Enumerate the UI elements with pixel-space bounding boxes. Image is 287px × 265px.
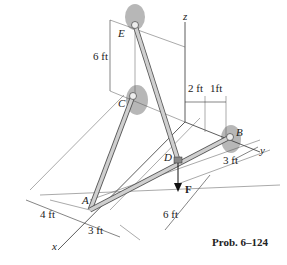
truss-diagram: E C B D A z y x F 6 ft 2 ft 1ft 3 ft 6 f… bbox=[0, 0, 287, 265]
label-x-axis: x bbox=[51, 240, 57, 252]
dim-1ft: 1ft bbox=[210, 82, 222, 94]
dim-6ft-vertical: 6 ft bbox=[93, 50, 108, 62]
joint-e bbox=[132, 22, 139, 29]
label-c: C bbox=[118, 97, 126, 109]
x-axis bbox=[58, 122, 185, 250]
label-e: E bbox=[117, 27, 125, 39]
label-force: F bbox=[185, 183, 192, 195]
label-d: D bbox=[163, 151, 172, 163]
y-axis bbox=[185, 122, 260, 152]
members bbox=[90, 25, 230, 210]
label-z-axis: z bbox=[182, 10, 188, 22]
joint-c bbox=[130, 93, 137, 100]
dim-6ft-ad: 6 ft bbox=[163, 208, 178, 220]
joint-b bbox=[227, 134, 234, 141]
label-y-axis: y bbox=[259, 144, 265, 156]
label-b: B bbox=[236, 126, 243, 138]
label-a: A bbox=[81, 194, 89, 206]
force-arrow-head bbox=[174, 183, 182, 192]
joint-d bbox=[174, 157, 182, 163]
dim-3ft-b: 3 ft bbox=[223, 154, 238, 166]
dim-4ft: 4 ft bbox=[40, 208, 55, 220]
dim-2ft: 2 ft bbox=[188, 82, 203, 94]
figure-caption: Prob. 6–124 bbox=[212, 236, 269, 248]
dim-3ft-a: 3 ft bbox=[88, 224, 103, 236]
